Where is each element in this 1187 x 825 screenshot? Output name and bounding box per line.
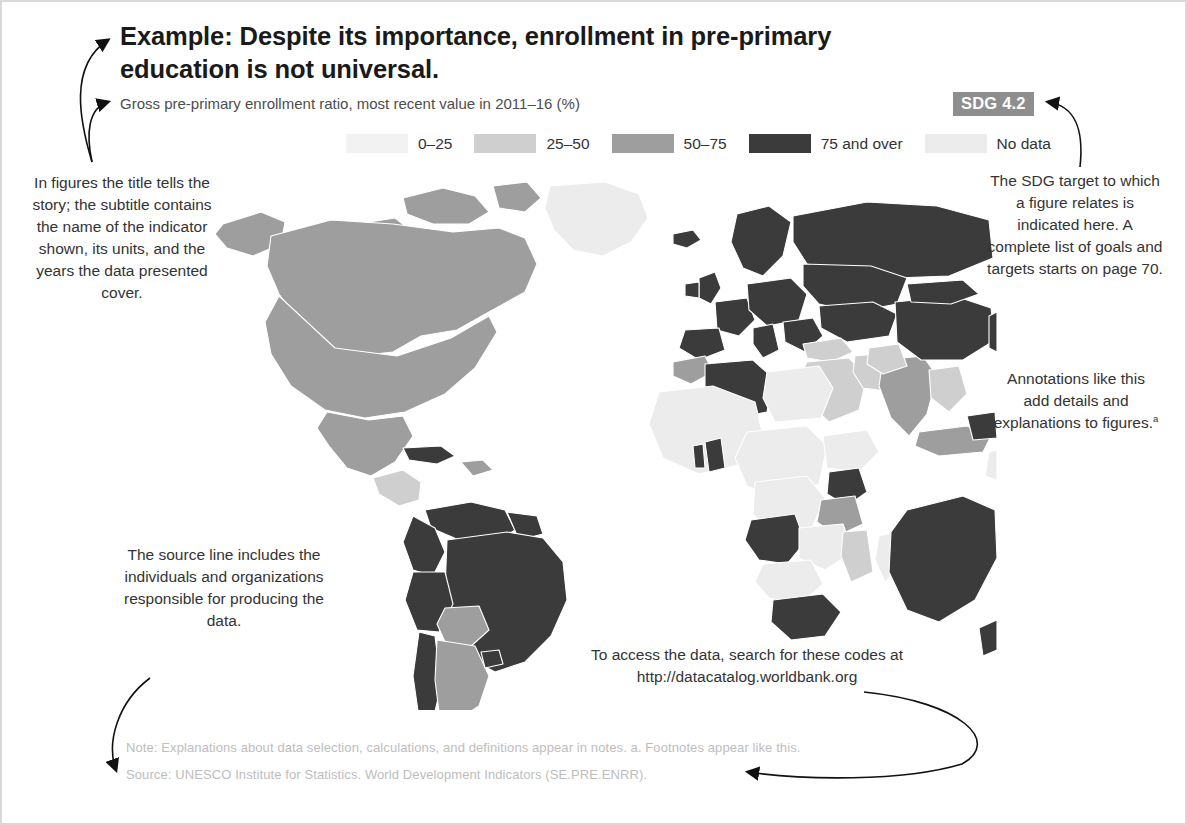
region-caribbean	[461, 460, 493, 476]
legend-label: 50–75	[684, 135, 727, 153]
figure-subtitle: Gross pre-primary enrollment ratio, most…	[120, 94, 820, 114]
region-south-africa	[771, 594, 841, 640]
figure-frame: Example: Despite its importance, enrollm…	[0, 0, 1187, 825]
world-choropleth-map	[207, 180, 997, 710]
region-southeast-asia	[929, 366, 967, 412]
arrow-to-sdg-badge	[1048, 102, 1081, 167]
arrow-to-title	[80, 40, 108, 162]
region-china	[895, 296, 995, 360]
figure-note: Note: Explanations about data selection,…	[126, 740, 801, 755]
region-central-europe	[747, 278, 807, 326]
legend-item: 50–75	[612, 134, 749, 153]
map-legend: 0–25 25–50 50–75 75 and over No data	[346, 134, 1051, 153]
region-ireland	[685, 282, 699, 298]
annotation-footnote-text: Annotations like this add details and ex…	[994, 370, 1153, 431]
legend-label: 0–25	[418, 135, 452, 153]
region-central-asia	[819, 302, 897, 342]
region-iceland	[673, 230, 701, 248]
region-libya-egypt	[763, 366, 833, 422]
figure-source: Source: UNESCO Institute for Statistics.…	[126, 767, 647, 782]
annotation-sdg-explainer: The SDG target to which a figure relates…	[987, 170, 1163, 280]
footnote-marker: a	[1153, 413, 1158, 424]
annotation-title-explainer: In figures the title tells the story; th…	[32, 172, 212, 304]
status-badge: SDG 4.2	[953, 92, 1034, 116]
page-title: Example: Despite its importance, enrollm…	[120, 20, 890, 85]
annotation-data-codes-explainer: To access the data, search for these cod…	[582, 644, 912, 688]
region-italy	[753, 324, 779, 358]
legend-item: 25–50	[474, 134, 611, 153]
legend-swatch-75-over	[749, 134, 811, 153]
legend-item: 75 and over	[749, 134, 925, 153]
arrow-to-source-line	[113, 678, 150, 770]
region-new-zealand	[979, 620, 997, 656]
legend-swatch-0-25	[346, 134, 408, 153]
region-japan	[989, 312, 997, 352]
legend-swatch-50-75	[612, 134, 674, 153]
region-united-kingdom	[699, 272, 721, 304]
region-ghana	[705, 438, 725, 472]
region-central-america	[373, 470, 421, 506]
region-canada-arctic-2	[493, 182, 541, 212]
region-papua-new-guinea	[985, 450, 997, 480]
region-greenland	[545, 182, 648, 256]
region-mozambique	[841, 530, 873, 582]
region-scandinavia	[731, 206, 791, 276]
region-australia	[889, 496, 997, 622]
legend-swatch-no-data	[925, 134, 987, 153]
legend-label: No data	[997, 135, 1051, 153]
legend-item: No data	[925, 134, 1051, 153]
region-mexico	[317, 412, 413, 476]
region-ethiopia	[823, 430, 879, 472]
annotation-footnote-explainer: Annotations like this add details and ex…	[992, 368, 1160, 434]
legend-swatch-25-50	[474, 134, 536, 153]
legend-item: 0–25	[346, 134, 474, 153]
region-iberia	[679, 328, 725, 360]
arrow-to-subtitle	[89, 102, 108, 162]
annotation-source-explainer: The source line includes the individuals…	[124, 544, 324, 632]
region-togo	[693, 444, 705, 468]
legend-label: 25–50	[546, 135, 589, 153]
legend-label: 75 and over	[821, 135, 903, 153]
region-canada-arctic	[403, 188, 489, 224]
region-cuba	[403, 446, 455, 464]
region-angola	[745, 514, 805, 564]
